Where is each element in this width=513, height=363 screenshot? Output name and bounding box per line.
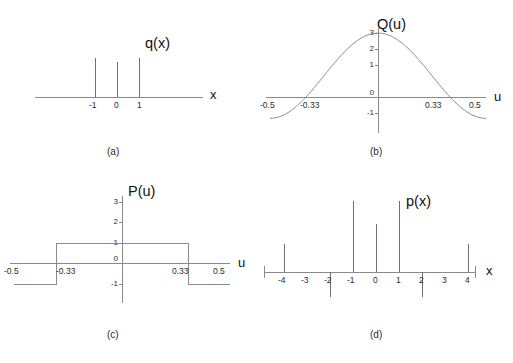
panel-b-xtick-05: 0.5: [469, 101, 481, 110]
panel-c-ytick-neg1-mark: [119, 284, 123, 285]
panel-d-impulse-1: [399, 201, 400, 272]
panel-d-tag: (d): [370, 330, 382, 340]
panel-d-xtick-3: 3: [442, 276, 447, 285]
panel-c-xtick-05: 0.5: [213, 267, 225, 276]
panel-d-xtick-neg1: -1: [347, 276, 355, 285]
panel-c-level-center-1: [56, 243, 188, 244]
panel-c-tag: (c): [107, 330, 119, 340]
panel-c-transition-fall: [188, 243, 189, 285]
panel-a-xtick-neg1: -1: [89, 101, 97, 110]
panel-b-axis-name: u: [494, 90, 501, 103]
panel-c-ytick-3-mark: [119, 202, 123, 203]
panel-d-function-label: p(x): [406, 194, 431, 209]
panel-c-ytick-0: 0: [111, 255, 118, 263]
panel-a-tag: (a): [107, 147, 119, 157]
panel-d-xtick-neg2: -2: [324, 276, 332, 285]
panel-a-xtick-0: 0: [114, 101, 119, 110]
panel-a-impulse-neg1: [95, 58, 96, 97]
panel-d-axis-cap-right: [475, 266, 476, 278]
panel-d-x-axis: [264, 272, 476, 273]
panel-c-y-axis: [122, 196, 123, 303]
panel-d-impulse-neg1: [353, 201, 354, 272]
panel-d-xtick-0: 0: [373, 276, 378, 285]
panel-c-xtick-033: 0.33: [172, 267, 189, 276]
panel-c-ytick-neg1: -1: [108, 280, 118, 288]
panel-b-xtick-neg033: -0.33: [300, 101, 319, 110]
panel-d-xtick-1: 1: [396, 276, 401, 285]
panel-d-xtick-2: 2: [419, 276, 424, 285]
panel-c-level-left-neg1: [14, 284, 56, 285]
panel-d-impulse-neg4: [284, 244, 285, 272]
panel-d-xtick-4: 4: [465, 276, 470, 285]
panel-d-axis-name: x: [486, 264, 493, 277]
panel-c-xtick-neg05: -0.5: [4, 267, 19, 276]
panel-b-xtick-033: 0.33: [425, 101, 442, 110]
panel-c-ytick-2: 2: [111, 218, 118, 226]
panel-d-impulse-0: [376, 224, 377, 272]
panel-a-axis-name: x: [210, 88, 217, 101]
panel-b-tag: (b): [370, 147, 382, 157]
panel-a-x-axis: [35, 97, 203, 98]
panel-d-xtick-neg3: -3: [301, 276, 309, 285]
panel-a-impulse-1: [139, 58, 140, 97]
panel-c-transition-rise: [56, 243, 57, 285]
panel-d-axis-cap-left: [264, 266, 265, 278]
panel-c: 3 2 1 0 -1 -0.5 -0.33 0.33 0.5 P(u) u (c…: [0, 182, 256, 363]
panel-d-xtick-neg4: -4: [278, 276, 286, 285]
panel-c-function-label: P(u): [128, 184, 155, 199]
panel-c-xtick-neg033: -0.33: [56, 267, 75, 276]
panel-c-ytick-3: 3: [111, 198, 118, 206]
panel-c-ytick-2-mark: [119, 222, 123, 223]
panel-a: -1 0 1 q(x) x (a): [0, 0, 256, 182]
panel-c-level-right-neg1: [188, 284, 230, 285]
panel-d: -4 -3 -2 -1 0 1 2 3 4 p(x) x (d): [256, 182, 513, 363]
panel-a-xtick-1: 1: [137, 101, 142, 110]
panel-b-function-label: Q(u): [377, 17, 406, 32]
panel-c-x-axis: [10, 263, 230, 264]
panel-b: 3 2 1 0 -1 -0.5 -0.33 0.33 0.5 Q(u) u (b…: [256, 0, 513, 182]
panel-a-impulse-0: [117, 62, 118, 97]
panel-a-function-label: q(x): [145, 36, 170, 51]
panel-d-impulse-4: [468, 244, 469, 272]
panel-b-xtick-neg05: -0.5: [260, 101, 275, 110]
panel-c-axis-name: u: [238, 256, 245, 269]
